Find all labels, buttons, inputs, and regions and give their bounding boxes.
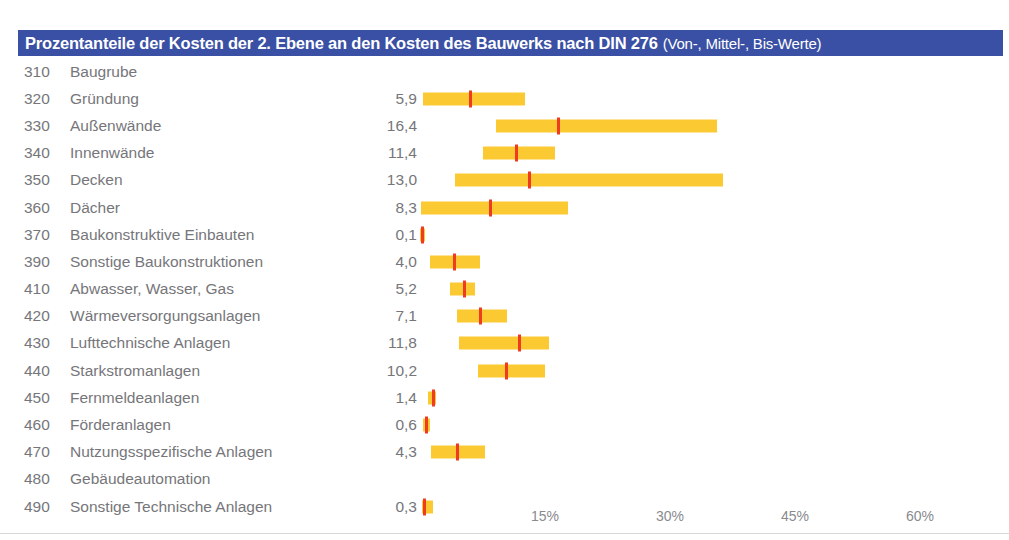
- chart-row: 390Sonstige Baukonstruktionen4,0: [0, 248, 1009, 275]
- row-plot: [420, 439, 980, 466]
- row-plot: [420, 140, 980, 167]
- chart-row: 320Gründung5,9: [0, 85, 1009, 112]
- chart-row: 480Gebäudeautomation: [0, 466, 1009, 493]
- mid-value-marker: [479, 308, 482, 325]
- row-plot: [420, 194, 980, 221]
- row-plot: [420, 357, 980, 384]
- row-plot: [420, 221, 980, 248]
- chart-row: 420Wärmeversorgungsanlagen7,1: [0, 303, 1009, 330]
- chart-row: 360Dächer8,3: [0, 194, 1009, 221]
- row-mid-value: 7,1: [357, 307, 417, 325]
- range-bar: [455, 174, 723, 187]
- row-label: Sonstige Baukonstruktionen: [70, 253, 263, 271]
- mid-value-marker: [425, 417, 428, 434]
- mid-value-marker: [557, 117, 560, 134]
- x-axis-tick: 45%: [781, 508, 809, 524]
- mid-value-marker: [489, 199, 492, 216]
- mid-value-marker: [421, 226, 424, 243]
- chart-row: 350Decken13,0: [0, 167, 1009, 194]
- row-plot: [420, 167, 980, 194]
- row-mid-value: 8,3: [357, 199, 417, 217]
- chart-row: 430Lufttechnische Anlagen11,8: [0, 330, 1009, 357]
- row-code: 360: [24, 199, 66, 217]
- row-label: Innenwände: [70, 144, 154, 162]
- row-label: Nutzungsspezifische Anlagen: [70, 443, 273, 461]
- row-label: Dächer: [70, 199, 120, 217]
- row-label: Fernmeldeanlagen: [70, 389, 199, 407]
- row-code: 430: [24, 334, 66, 352]
- row-code: 460: [24, 416, 66, 434]
- row-label: Gründung: [70, 90, 139, 108]
- row-label: Außenwände: [70, 117, 161, 135]
- chart-row: 440Starkstromanlagen10,2: [0, 357, 1009, 384]
- row-mid-value: 4,0: [357, 253, 417, 271]
- row-plot: [420, 112, 980, 139]
- row-label: Förderanlagen: [70, 416, 171, 434]
- row-code: 480: [24, 470, 66, 488]
- mid-value-marker: [456, 444, 459, 461]
- row-mid-value: 11,4: [357, 144, 417, 162]
- row-mid-value: 1,4: [357, 389, 417, 407]
- mid-value-marker: [528, 172, 531, 189]
- chart-rows: 310Baugrube320Gründung5,9330Außenwände16…: [0, 58, 1009, 520]
- x-axis-tick: 60%: [906, 508, 934, 524]
- mid-value-marker: [505, 362, 508, 379]
- row-label: Baukonstruktive Einbauten: [70, 226, 254, 244]
- chart-sheet: Prozentanteile der Kosten der 2. Ebene a…: [0, 0, 1009, 540]
- row-plot: [420, 58, 980, 85]
- row-code: 330: [24, 117, 66, 135]
- row-code: 450: [24, 389, 66, 407]
- row-plot: [420, 330, 980, 357]
- row-mid-value: 16,4: [357, 117, 417, 135]
- row-code: 340: [24, 144, 66, 162]
- row-mid-value: 5,2: [357, 280, 417, 298]
- row-mid-value: 5,9: [357, 90, 417, 108]
- chart-row: 470Nutzungsspezifische Anlagen4,3: [0, 439, 1009, 466]
- chart-row: 330Außenwände16,4: [0, 112, 1009, 139]
- row-plot: [420, 276, 980, 303]
- row-code: 390: [24, 253, 66, 271]
- row-code: 470: [24, 443, 66, 461]
- row-plot: [420, 248, 980, 275]
- row-label: Wärmeversorgungsanlagen: [70, 307, 260, 325]
- chart-row: 370Baukonstruktive Einbauten0,1: [0, 221, 1009, 248]
- row-plot: [420, 411, 980, 438]
- row-mid-value: 0,1: [357, 226, 417, 244]
- row-label: Gebäudeautomation: [70, 470, 210, 488]
- row-label: Baugrube: [70, 63, 137, 81]
- mid-value-marker: [432, 389, 435, 406]
- x-axis: 15%30%45%60%: [0, 508, 1009, 530]
- row-mid-value: 13,0: [357, 171, 417, 189]
- row-mid-value: 0,6: [357, 416, 417, 434]
- chart-title-bar: Prozentanteile der Kosten der 2. Ebene a…: [18, 30, 1003, 56]
- chart-row: 310Baugrube: [0, 58, 1009, 85]
- row-label: Abwasser, Wasser, Gas: [70, 280, 234, 298]
- range-bar: [478, 364, 545, 377]
- row-code: 370: [24, 226, 66, 244]
- mid-value-marker: [463, 281, 466, 298]
- mid-value-marker: [469, 90, 472, 107]
- range-bar: [496, 119, 717, 132]
- chart-title-main: Prozentanteile der Kosten der 2. Ebene a…: [25, 34, 658, 53]
- mid-value-marker: [515, 145, 518, 162]
- row-label: Decken: [70, 171, 123, 189]
- chart-row: 340Innenwände11,4: [0, 140, 1009, 167]
- top-edge: [0, 0, 1009, 1]
- row-mid-value: 11,8: [357, 334, 417, 352]
- chart-row: 450Fernmeldeanlagen1,4: [0, 384, 1009, 411]
- chart-row: 460Förderanlagen0,6: [0, 411, 1009, 438]
- footer-divider: [0, 533, 1009, 534]
- range-bar: [459, 337, 549, 350]
- row-code: 440: [24, 362, 66, 380]
- row-label: Lufttechnische Anlagen: [70, 334, 230, 352]
- row-plot: [420, 303, 980, 330]
- x-axis-tick: 30%: [656, 508, 684, 524]
- row-plot: [420, 384, 980, 411]
- mid-value-marker: [518, 335, 521, 352]
- range-bar: [423, 92, 525, 105]
- row-plot: [420, 85, 980, 112]
- range-bar: [483, 147, 555, 160]
- range-bar: [421, 201, 569, 214]
- chart-title-subtitle: (Von-, Mittel-, Bis-Werte): [663, 35, 822, 52]
- row-mid-value: 10,2: [357, 362, 417, 380]
